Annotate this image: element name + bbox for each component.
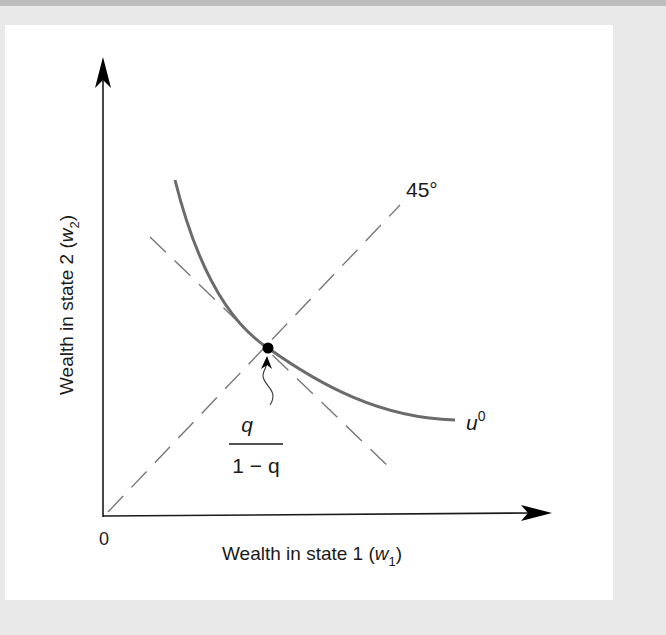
y-axis-label-text: Wealth in state 2 ( [56,242,77,395]
slope-denominator: 1 − q [232,454,279,477]
slope-numerator: q [241,413,253,436]
y-axis-label: Wealth in state 2 (w2) [56,215,82,395]
tangency-point [263,343,274,354]
origin-label: 0 [99,529,109,549]
curve-label: u0 [466,408,486,434]
indifference-curve [175,180,455,420]
x-axis-label: Wealth in state 1 (w1) [222,543,402,569]
annotation-arrowhead-icon [261,356,272,369]
curve-label-var: u [466,411,478,434]
x-axis-label-text: Wealth in state 1 ( [222,543,375,564]
y-axis-label-close: ) [56,215,77,221]
x-axis [103,513,530,516]
curve-label-sup: 0 [478,408,486,424]
line-45-label: 45° [406,178,438,201]
figure-diagram: 45° u0 q 1 − q 0 Wealth in state 1 (w1) … [0,0,666,635]
x-axis-label-sub: 1 [389,554,396,569]
x-axis-label-close: ) [396,543,402,564]
y-axis-label-sub: 2 [67,221,82,228]
annotation-wavy-arrow [263,360,273,405]
